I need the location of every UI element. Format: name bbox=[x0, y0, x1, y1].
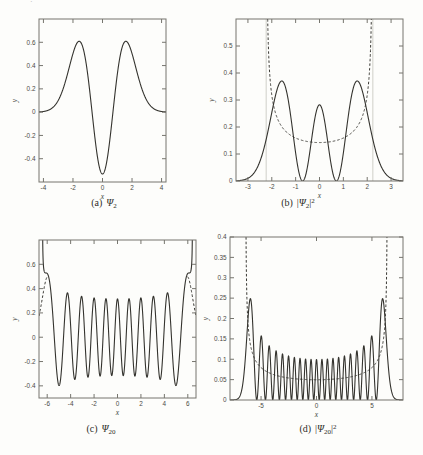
svg-text:6: 6 bbox=[186, 400, 190, 407]
d-frame bbox=[230, 237, 403, 400]
psi2-probability-density-curve bbox=[236, 81, 403, 181]
svg-text:0.2: 0.2 bbox=[27, 309, 36, 316]
svg-text:0.2: 0.2 bbox=[27, 85, 36, 92]
svg-text:-2: -2 bbox=[70, 184, 76, 191]
caption-c-math: Ψ20 bbox=[102, 423, 116, 434]
svg-text:2: 2 bbox=[139, 400, 143, 407]
svg-text:0: 0 bbox=[32, 334, 36, 341]
caption-a-subscript: 2 bbox=[113, 202, 117, 210]
caption-b-psi: Ψ bbox=[299, 197, 306, 208]
svg-text:0.5: 0.5 bbox=[224, 42, 233, 49]
svg-text:0.05: 0.05 bbox=[214, 376, 227, 383]
svg-text:-4: -4 bbox=[68, 400, 74, 407]
svg-text:0: 0 bbox=[229, 177, 233, 184]
svg-text:0: 0 bbox=[318, 183, 322, 190]
svg-text:0.15: 0.15 bbox=[214, 335, 227, 342]
caption-a-math: Ψ2 bbox=[106, 197, 117, 208]
svg-text:4: 4 bbox=[160, 184, 164, 191]
caption-c-psi: Ψ bbox=[102, 423, 109, 434]
d-ytick-labels: 00.050.10.150.20.250.30.350.4 bbox=[214, 233, 227, 403]
svg-text:0.4: 0.4 bbox=[224, 69, 233, 76]
cropped-text-artifact: · bbox=[30, 0, 44, 4]
caption-a-index: (a) bbox=[91, 197, 102, 208]
c-ytick-labels: -0.4-0.200.20.40.6 bbox=[24, 261, 35, 390]
svg-text:0.3: 0.3 bbox=[224, 96, 233, 103]
a-xtick-labels: -4-2024 bbox=[41, 184, 164, 191]
b-ytick-labels: 00.10.20.30.40.5 bbox=[224, 42, 233, 184]
svg-text:2: 2 bbox=[365, 183, 369, 190]
c-y-axis-label: y bbox=[10, 317, 19, 322]
d-y-axis-label: y bbox=[201, 316, 210, 321]
svg-text:0.1: 0.1 bbox=[218, 356, 227, 363]
caption-b: (b)|Ψ2|2 bbox=[238, 197, 358, 208]
svg-text:-3: -3 bbox=[245, 183, 251, 190]
c-ticks bbox=[39, 240, 196, 398]
svg-text:0.4: 0.4 bbox=[27, 62, 36, 69]
svg-text:-2: -2 bbox=[91, 400, 97, 407]
a-y-axis-label: y bbox=[10, 98, 19, 103]
d-xtick-labels: -505 bbox=[258, 402, 374, 409]
svg-text:-0.4: -0.4 bbox=[24, 382, 35, 389]
svg-text:0.1: 0.1 bbox=[224, 150, 233, 157]
psi20-probability-density-curve bbox=[230, 299, 403, 400]
svg-text:2: 2 bbox=[130, 184, 134, 191]
svg-text:4: 4 bbox=[163, 400, 167, 407]
figure: -4-2024-0.4-0.200.20.40.6xy-3-2-1012300.… bbox=[0, 0, 423, 455]
svg-text:0.6: 0.6 bbox=[27, 261, 36, 268]
figure-canvas: -4-2024-0.4-0.200.20.40.6xy-3-2-1012300.… bbox=[0, 0, 423, 455]
a-ytick-labels: -0.4-0.200.20.40.6 bbox=[24, 39, 35, 162]
caption-d: (d)|Ψ20|2 bbox=[258, 423, 378, 434]
psi20-exact-edge-tail-curve bbox=[39, 277, 196, 316]
svg-text:1: 1 bbox=[342, 183, 346, 190]
svg-text:0: 0 bbox=[32, 108, 36, 115]
svg-text:0: 0 bbox=[315, 402, 319, 409]
subplot-b: -3-2-1012300.10.20.30.40.5xy bbox=[207, 0, 403, 199]
d-ticks bbox=[230, 237, 403, 400]
caption-b-exponent: 2 bbox=[311, 197, 315, 205]
svg-text:0.35: 0.35 bbox=[214, 254, 227, 261]
svg-text:-6: -6 bbox=[44, 400, 50, 407]
psi2-wavefunction-curve bbox=[39, 41, 166, 174]
caption-c-subscript: 20 bbox=[109, 428, 116, 436]
caption-c-index: (c) bbox=[86, 423, 97, 434]
svg-text:-0.4: -0.4 bbox=[24, 155, 35, 162]
c-x-axis-label: x bbox=[115, 408, 120, 417]
svg-text:0: 0 bbox=[101, 184, 105, 191]
svg-text:-4: -4 bbox=[41, 184, 47, 191]
b-y-axis-label: y bbox=[207, 98, 216, 103]
subplot-a: -4-2024-0.4-0.200.20.40.6xy bbox=[10, 19, 166, 201]
svg-text:5: 5 bbox=[370, 402, 374, 409]
svg-text:0.4: 0.4 bbox=[27, 285, 36, 292]
svg-text:-1: -1 bbox=[293, 183, 299, 190]
svg-text:0.3: 0.3 bbox=[218, 274, 227, 281]
caption-d-math: |Ψ20|2 bbox=[315, 423, 337, 434]
svg-text:0: 0 bbox=[223, 396, 227, 403]
caption-d-index: (d) bbox=[299, 423, 311, 434]
c-xtick-labels: -6-4-20246 bbox=[44, 400, 190, 407]
svg-text:-0.2: -0.2 bbox=[24, 358, 35, 365]
d-x-axis-label: x bbox=[314, 410, 319, 419]
svg-text:0.2: 0.2 bbox=[224, 123, 233, 130]
caption-a: (a)Ψ2 bbox=[44, 197, 164, 208]
caption-c: (c)Ψ20 bbox=[41, 423, 161, 434]
svg-text:-2: -2 bbox=[269, 183, 275, 190]
svg-text:0.4: 0.4 bbox=[218, 233, 227, 240]
svg-text:0.6: 0.6 bbox=[27, 39, 36, 46]
svg-text:0.2: 0.2 bbox=[218, 315, 227, 322]
caption-d-exponent: 2 bbox=[333, 423, 337, 431]
svg-text:0.25: 0.25 bbox=[214, 294, 227, 301]
svg-text:0: 0 bbox=[116, 400, 120, 407]
b-xtick-labels: -3-2-10123 bbox=[245, 183, 393, 190]
svg-text:-0.2: -0.2 bbox=[24, 132, 35, 139]
c-frame bbox=[39, 240, 196, 398]
caption-b-math: |Ψ2|2 bbox=[297, 197, 315, 208]
svg-text:-5: -5 bbox=[258, 402, 264, 409]
caption-b-index: (b) bbox=[281, 197, 293, 208]
svg-text:3: 3 bbox=[389, 183, 393, 190]
